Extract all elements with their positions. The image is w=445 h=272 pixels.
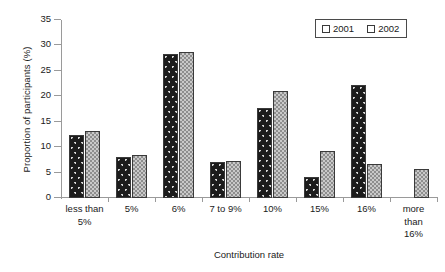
legend-entry-2002: 2002 [367,23,399,34]
bar-2002-7-to-9- [226,161,242,198]
bar-2002-10- [273,91,289,198]
x-axis-category-label: morethan16% [390,203,437,241]
y-axis-tick: 35 [54,19,61,20]
bar-group [304,20,336,198]
bar-2002-16- [367,164,383,198]
bar-2001-15- [304,177,320,198]
bar-2002-6- [179,52,195,198]
bar-group [210,20,242,198]
chart-legend: 2001 2002 [315,19,407,38]
dark-speckled-swatch-icon [322,25,330,33]
bar-2002-15- [320,151,336,198]
x-axis-tick [437,198,438,202]
y-axis-title: Proportion of participants (%) [21,20,32,200]
x-axis-tick [108,198,109,202]
bar-group [116,20,148,198]
x-axis-tick [390,198,391,202]
y-axis-tick-label: 15 [40,115,51,126]
x-axis-category-label: 16% [343,203,390,216]
bar-group [163,20,195,198]
x-axis-tick [202,198,203,202]
bar-2001-less-than-5- [69,135,85,198]
legend-label-2001: 2001 [333,23,354,34]
bar-2001-16- [351,85,367,198]
bar-2002-less-than-5- [85,131,101,198]
bar-2001-7-to-9- [210,162,226,198]
y-axis-tick-label: 5 [46,166,51,177]
y-axis-tick-label: 30 [40,38,51,49]
x-axis-tick [296,198,297,202]
bar-group [69,20,101,198]
bar-group [257,20,289,198]
y-axis-tick-label: 0 [46,191,51,202]
x-axis-title: Contribution rate [61,249,437,260]
bar-2001-6- [163,54,179,198]
gray-checkered-swatch-icon [367,25,375,33]
x-axis-tick [343,198,344,202]
x-axis-category-label: 15% [296,203,343,216]
x-axis-category-label: 5% [108,203,155,216]
y-axis-tick: 30 [54,44,61,45]
legend-entry-2001: 2001 [322,23,354,34]
x-axis-tick [249,198,250,202]
bar-group [398,20,430,198]
y-axis-tick-label: 25 [40,64,51,75]
y-axis-tick: 10 [54,146,61,147]
y-axis-tick-label: 20 [40,89,51,100]
y-axis-tick: 25 [54,70,61,71]
x-axis-tick [155,198,156,202]
y-axis-line [61,20,62,199]
bar-2002-more-than-16- [414,169,430,198]
y-axis-tick: 0 [54,197,61,198]
bar-chart: Proportion of participants (%) 051015202… [0,0,445,272]
x-axis-category-label: less than5% [61,203,108,228]
y-axis-tick-label: 35 [40,13,51,24]
y-axis-tick-label: 10 [40,140,51,151]
x-axis-category-label: 10% [249,203,296,216]
bar-2002-5- [132,155,148,198]
y-axis-tick: 20 [54,95,61,96]
bar-group [351,20,383,198]
y-axis-tick: 15 [54,121,61,122]
x-axis-category-label: 7 to 9% [202,203,249,216]
plot-area: 05101520253035 [61,20,437,198]
y-axis-tick: 5 [54,172,61,173]
bar-2001-5- [116,157,132,198]
legend-label-2002: 2002 [378,23,399,34]
x-axis-category-label: 6% [155,203,202,216]
bar-2001-10- [257,108,273,198]
